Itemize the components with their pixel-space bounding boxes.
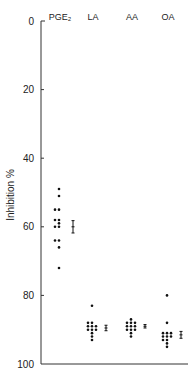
data-point [130, 328, 133, 331]
data-point [91, 325, 94, 328]
data-points [54, 188, 173, 348]
data-point [166, 294, 169, 297]
data-point [130, 322, 133, 325]
data-point [166, 332, 169, 335]
data-point [134, 322, 137, 325]
category-labels: PGE₂LAAAOA [49, 12, 175, 22]
data-point [134, 328, 137, 331]
y-tick-label: 0 [28, 16, 34, 27]
data-point [87, 328, 90, 331]
category-label: OA [161, 12, 174, 22]
data-point [166, 322, 169, 325]
data-point [95, 325, 98, 328]
category-label: LA [87, 12, 98, 22]
y-tick-label: 60 [23, 221, 35, 232]
data-point [126, 322, 129, 325]
data-point [91, 335, 94, 338]
y-tick-label: 100 [17, 359, 34, 370]
data-point [54, 239, 57, 242]
data-point [91, 339, 94, 342]
category-label: PGE₂ [49, 12, 72, 22]
y-tick-label: 20 [23, 84, 35, 95]
y-tick-label: 40 [23, 153, 35, 164]
data-point [166, 335, 169, 338]
data-point [54, 208, 57, 211]
data-point [54, 219, 57, 222]
y-axis: 020406080100 [17, 16, 188, 370]
mean-error-bars [72, 221, 183, 339]
data-point [166, 346, 169, 349]
y-tick-label: 80 [23, 290, 35, 301]
data-point [170, 335, 173, 338]
data-point [58, 208, 61, 211]
data-point [126, 328, 129, 331]
data-point [58, 239, 61, 242]
data-point [126, 325, 129, 328]
data-point [162, 339, 165, 342]
data-point [58, 226, 61, 229]
data-point [58, 246, 61, 249]
data-point [170, 332, 173, 335]
data-point [130, 335, 133, 338]
y-axis-label: Inhibition % [5, 169, 16, 221]
data-point [87, 322, 90, 325]
data-point [95, 328, 98, 331]
data-point [162, 335, 165, 338]
data-point [58, 188, 61, 191]
category-label: AA [126, 12, 138, 22]
data-point [166, 342, 169, 345]
data-point [58, 195, 61, 198]
data-point [130, 325, 133, 328]
data-point [91, 304, 94, 307]
data-point [87, 325, 90, 328]
data-point [130, 332, 133, 335]
data-point [130, 318, 133, 321]
data-point [162, 332, 165, 335]
data-point [58, 222, 61, 225]
dot-plot-chart: 020406080100 PGE₂LAAAOA Inhibition % [0, 0, 192, 375]
data-point [54, 226, 57, 229]
data-point [91, 332, 94, 335]
data-point [58, 219, 61, 222]
data-point [91, 322, 94, 325]
data-point [134, 325, 137, 328]
data-point [58, 267, 61, 270]
data-point [166, 339, 169, 342]
data-point [91, 328, 94, 331]
